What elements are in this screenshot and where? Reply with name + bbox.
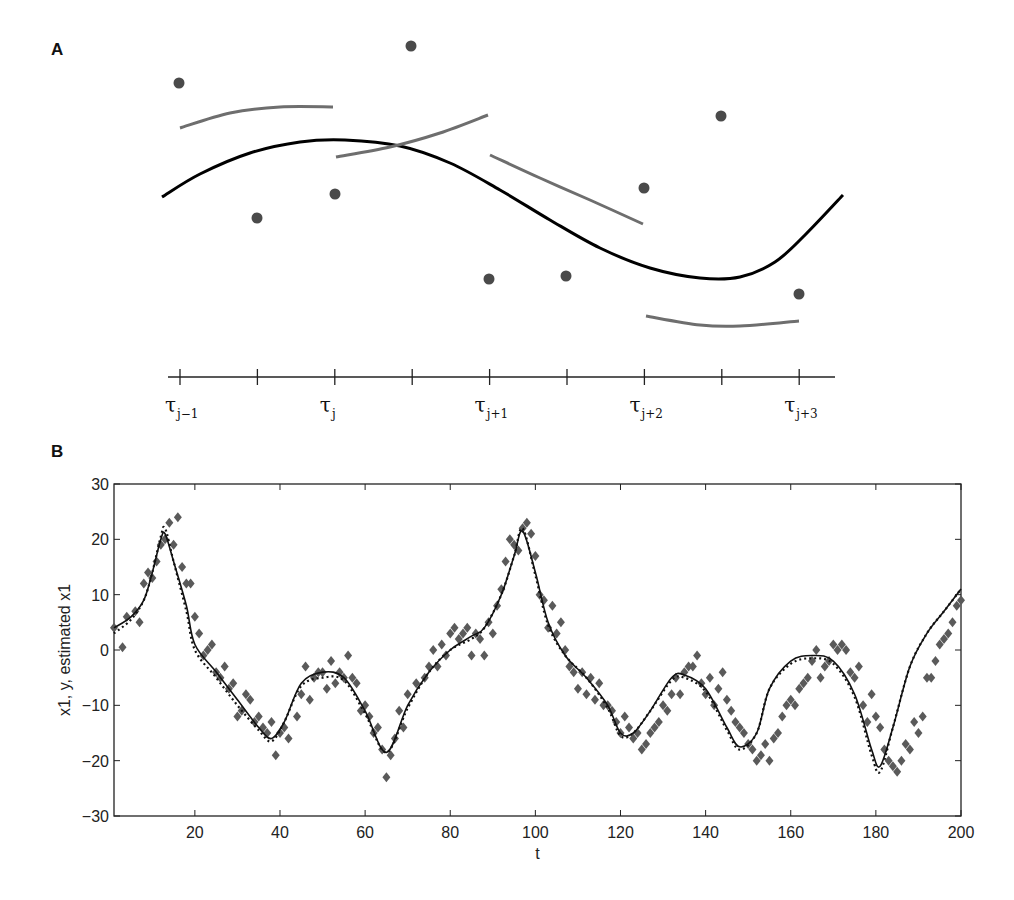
observation-marker xyxy=(136,617,144,627)
observation-marker xyxy=(574,684,582,694)
x-tick-label: 80 xyxy=(441,824,459,841)
x-tick-label: 120 xyxy=(607,824,634,841)
y-tick-label: −20 xyxy=(82,753,109,770)
data-point xyxy=(330,189,341,200)
observation-marker xyxy=(302,662,310,672)
observation-marker xyxy=(395,706,403,716)
observation-marker xyxy=(668,689,676,699)
observation-marker xyxy=(948,617,956,627)
observation-marker xyxy=(868,689,876,699)
observation-marker xyxy=(195,628,203,638)
observation-marker xyxy=(221,662,229,672)
x-tick-label: 100 xyxy=(522,824,549,841)
observation-marker xyxy=(931,656,939,666)
knot-label: τj−1 xyxy=(165,393,199,421)
observation-marker xyxy=(285,734,293,744)
observation-marker xyxy=(331,678,339,688)
data-point xyxy=(406,41,417,52)
observation-marker xyxy=(914,728,922,738)
observation-marker xyxy=(778,711,786,721)
observation-marker xyxy=(468,651,476,661)
data-point xyxy=(716,111,727,122)
observation-marker xyxy=(306,695,314,705)
observation-marker xyxy=(327,656,335,666)
y-tick-label: −30 xyxy=(82,808,109,825)
observation-marker xyxy=(706,673,714,683)
observation-marker xyxy=(429,645,437,655)
observation-marker xyxy=(693,651,701,661)
data-point xyxy=(252,213,263,224)
y-tick-label: 30 xyxy=(91,476,109,493)
observation-marker xyxy=(910,717,918,727)
observation-marker xyxy=(582,689,590,699)
local-fit-segment xyxy=(490,155,643,224)
observation-marker xyxy=(187,579,195,589)
observation-marker xyxy=(344,651,352,661)
observation-marker xyxy=(557,617,565,627)
local-fit-segment xyxy=(646,316,799,326)
knot-label: τj xyxy=(320,393,336,421)
y-tick-label: 0 xyxy=(100,642,109,659)
data-point xyxy=(484,274,495,285)
y-tick-label: 10 xyxy=(91,587,109,604)
observation-marker xyxy=(872,711,880,721)
observation-marker xyxy=(174,512,182,522)
x-axis-label: t xyxy=(535,845,540,862)
observation-marker xyxy=(723,695,731,705)
observation-marker xyxy=(119,642,127,652)
x-tick-label: 140 xyxy=(692,824,719,841)
local-fit-segment xyxy=(336,115,488,157)
x-tick-label: 40 xyxy=(271,824,289,841)
observation-marker xyxy=(591,695,599,705)
observation-marker xyxy=(548,601,556,611)
knot-label: τj+2 xyxy=(629,393,663,421)
observation-marker xyxy=(267,717,275,727)
observation-marker xyxy=(595,678,603,688)
y-tick-label: 20 xyxy=(91,531,109,548)
observation-marker xyxy=(480,651,488,661)
panel-a-spline-diagram: τj−1τjτj+1τj+2τj+3 xyxy=(162,41,843,422)
true-x1-line xyxy=(114,531,961,767)
observation-marker xyxy=(425,662,433,672)
x-tick-label: 20 xyxy=(186,824,204,841)
data-point xyxy=(794,289,805,300)
panel-b-time-series-plot: 204060801001201401601802003020100−10−20−… xyxy=(56,476,974,862)
figure-canvas: τj−1τjτj+1τj+2τj+3 204060801001201401601… xyxy=(0,0,1014,900)
knot-label: τj+1 xyxy=(475,393,509,421)
data-point xyxy=(174,78,185,89)
observation-marker xyxy=(587,673,595,683)
observation-marker xyxy=(702,689,710,699)
observation-marker xyxy=(527,529,535,539)
x-tick-label: 180 xyxy=(863,824,890,841)
observation-marker xyxy=(404,689,412,699)
local-fit-segment xyxy=(180,107,333,128)
observation-marker xyxy=(761,739,769,749)
x-tick-label: 200 xyxy=(948,824,975,841)
observation-marker xyxy=(382,772,390,782)
data-point xyxy=(639,183,650,194)
observation-marker xyxy=(170,540,178,550)
observation-marker xyxy=(855,662,863,672)
observation-marker xyxy=(191,612,199,622)
observation-marker xyxy=(272,750,280,760)
observation-marker xyxy=(919,711,927,721)
observation-marker xyxy=(897,756,905,766)
observation-marker xyxy=(727,706,735,716)
observation-marker xyxy=(689,662,697,672)
observation-marker xyxy=(140,579,148,589)
observation-marker xyxy=(927,673,935,683)
observation-marker xyxy=(502,556,510,566)
observation-marker xyxy=(178,562,186,572)
observation-marker xyxy=(812,645,820,655)
observation-marker xyxy=(876,722,884,732)
observation-marker xyxy=(625,722,633,732)
observation-marker xyxy=(676,689,684,699)
observation-marker xyxy=(765,756,773,766)
observation-marker xyxy=(165,518,173,528)
x-tick-label: 60 xyxy=(356,824,374,841)
x-tick-label: 160 xyxy=(777,824,804,841)
observation-marker xyxy=(621,711,629,721)
observation-marker xyxy=(323,684,331,694)
observation-marker xyxy=(817,673,825,683)
data-point xyxy=(561,271,572,282)
